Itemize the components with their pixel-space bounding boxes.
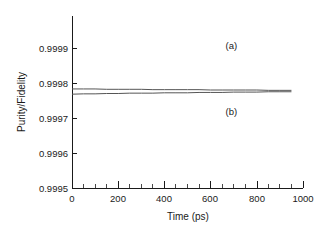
y-tick-label-1: 0.9996 [39,148,68,159]
purity-fidelity-line-chart: 0.9995 0.9996 0.9997 0.9998 0.9999 [0,0,324,233]
x-tick-label-3: 600 [202,193,218,204]
axis-spines [72,16,303,188]
y-tick-label-0: 0.9995 [39,183,68,194]
series-annotation-b: (b) [226,106,238,117]
x-tick-label-4: 800 [249,193,265,204]
series-line-b [72,92,291,94]
y-tick-labels: 0.9995 0.9996 0.9997 0.9998 0.9999 [39,43,68,194]
y-tick-label-4: 0.9999 [39,43,68,54]
series-line-a [72,89,291,90]
x-tick-label-2: 400 [156,193,172,204]
x-tick-labels: 0 200 400 600 800 1000 [69,193,313,204]
x-axis-minor-ticks [84,184,292,188]
x-axis-major-ticks [73,181,304,188]
x-axis-title: Time (ps) [167,211,209,222]
x-tick-label-1: 200 [110,193,126,204]
y-tick-label-3: 0.9998 [39,78,68,89]
y-axis-title: Purity/Fidelity [16,72,27,132]
series-group [72,89,291,94]
x-tick-label-5: 1000 [292,193,313,204]
series-annotation-a: (a) [226,40,238,51]
chart-figure: 0.9995 0.9996 0.9997 0.9998 0.9999 [0,0,324,233]
x-tick-label-0: 0 [69,193,74,204]
y-tick-label-2: 0.9997 [39,113,68,124]
y-axis-ticks [72,49,77,189]
